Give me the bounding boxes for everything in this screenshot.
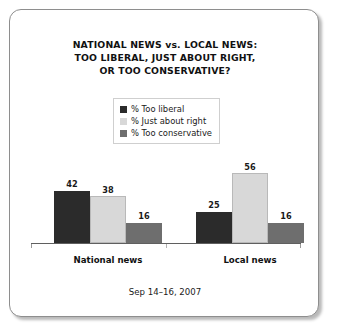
bar-2-group-1: 38 (90, 196, 126, 244)
chart-plot-area: 423816National news255616Local news (10, 10, 320, 318)
category-label-2: Local news (182, 255, 318, 265)
bar-value-label: 16 (126, 211, 162, 223)
axis-tick-group-divider (166, 244, 167, 248)
bar-value-label: 56 (233, 162, 267, 174)
chart-card: NATIONAL NEWS vs. LOCAL NEWS: TOO LIBERA… (9, 9, 319, 317)
bar-value-label: 16 (268, 211, 304, 223)
bar-value-label: 38 (91, 185, 125, 197)
bar-3-group-1: 16 (126, 223, 162, 243)
category-label-1: National news (40, 255, 176, 265)
bar-1-group-2: 25 (196, 212, 232, 243)
axis-tick-right (300, 244, 301, 248)
bar-3-group-2: 16 (268, 223, 304, 243)
chart-footnote: Sep 14–16, 2007 (10, 287, 320, 297)
bar-2-group-2: 56 (232, 173, 268, 243)
bar-value-label: 25 (196, 200, 232, 212)
bar-1-group-1: 42 (54, 191, 90, 244)
axis-tick-left (31, 244, 32, 248)
bar-value-label: 42 (54, 179, 90, 191)
